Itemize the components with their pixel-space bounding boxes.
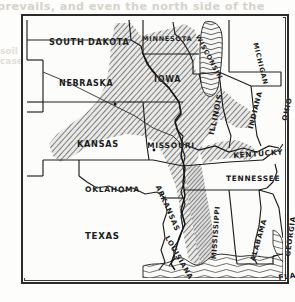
state-label-south-dakota: SOUTH DAKOTA: [49, 38, 130, 46]
state-label-florida: FLA.: [278, 271, 295, 281]
city-dot-nebraska: [114, 103, 117, 106]
state-label-tennessee: TENNESSEE: [226, 175, 280, 182]
state-label-iowa: IOWA: [154, 76, 181, 84]
state-label-nebraska: NEBRASKA: [59, 80, 113, 88]
state-label-georgia: GEORGIA: [285, 216, 295, 257]
state-label-kansas: KANSAS: [77, 140, 119, 148]
map-frame: SOUTH DAKOTA MINNESOTA WISCONSIN MICHIGA…: [21, 14, 289, 284]
state-label-minnesota: MINNESOTA: [142, 36, 192, 43]
map-page: prevails, and even the north side of the…: [0, 0, 295, 302]
state-label-missouri: MISSOURI: [147, 142, 195, 150]
state-label-texas: TEXAS: [85, 232, 120, 241]
state-label-oklahoma: OKLAHOMA: [85, 186, 140, 194]
